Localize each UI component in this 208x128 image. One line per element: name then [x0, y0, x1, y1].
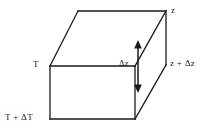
right-face	[135, 11, 166, 119]
edge-top-right-receding	[135, 11, 166, 66]
label-temperature-t-plus-delta-t: T + ΔT	[5, 112, 33, 122]
edge-top-left-receding	[50, 11, 78, 66]
label-z: z	[171, 5, 175, 15]
edge-bottom-right-receding	[135, 65, 166, 119]
label-delta-z: Δz	[119, 58, 129, 68]
label-z-plus-delta-z: z + Δz	[170, 58, 195, 68]
label-temperature-t: T	[33, 59, 39, 69]
figure-canvas: z z + Δz Δz T T + ΔT	[0, 0, 208, 128]
delta-z-arrowhead-up	[134, 40, 142, 49]
top-face	[50, 11, 166, 66]
front-face	[50, 66, 135, 119]
